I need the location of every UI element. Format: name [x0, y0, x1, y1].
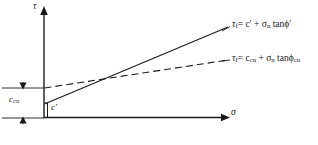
undrained-equation-rhs-mid: + σ — [256, 53, 271, 63]
undrained-equation-label: τf= ccu + σn tanϕcu — [232, 54, 300, 64]
y-axis — [40, 6, 48, 118]
drained-equation-rhs-pre: = c′ + σ — [238, 19, 267, 29]
drained-equation-label: τf= c′ + σn tanϕ′ — [232, 20, 291, 30]
c-cu-label-subscript: cu — [13, 97, 19, 104]
c-prime-label: c′ — [51, 103, 57, 112]
drained-equation-rhs-post: tanϕ′ — [270, 19, 291, 29]
x-axis-arrowhead — [221, 114, 230, 122]
y-axis-label: τ — [33, 2, 36, 12]
c-prime-bracket — [45, 103, 48, 117]
undrained-equation-rhs-post: tanϕ — [275, 53, 294, 63]
undrained-equation-phi-subscript: cu — [294, 56, 300, 63]
undrained-envelope-line — [45, 60, 229, 88]
undrained-equation-leader — [222, 60, 230, 61]
undrained-equation-rhs-pre: = c — [238, 53, 250, 63]
drained-envelope-line — [45, 27, 229, 104]
y-axis-arrowhead — [40, 6, 48, 15]
shear-strength-envelope-figure: τ σ τf= c′ + σn tanϕ′ τf= ccu + σn tanϕc… — [0, 0, 318, 145]
c-cu-label: ccu — [9, 95, 19, 105]
x-axis-label: σ — [231, 108, 236, 118]
x-axis — [44, 114, 230, 122]
